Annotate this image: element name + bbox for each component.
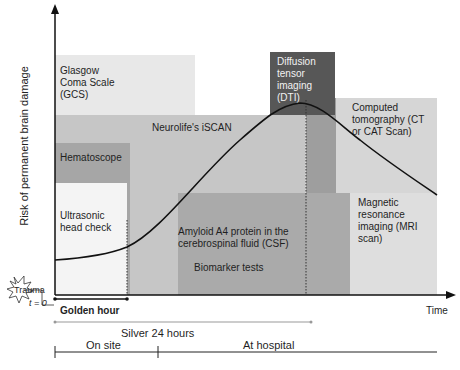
on-site-label: On site xyxy=(86,339,121,351)
y-axis-arrow xyxy=(51,4,59,14)
trauma-label: Trauma xyxy=(14,284,45,296)
origin-label: t = 0 xyxy=(29,297,47,309)
x-axis-label: Time xyxy=(426,305,448,317)
risk-curve xyxy=(55,103,437,260)
silver-24-label: Silver 24 hours xyxy=(121,327,194,339)
x-axis-arrow xyxy=(446,291,456,299)
y-axis-label: Risk of permanent brain damage xyxy=(18,46,30,246)
golden-hour-label: Golden hour xyxy=(60,305,119,317)
at-hospital-label: At hospital xyxy=(243,339,294,351)
